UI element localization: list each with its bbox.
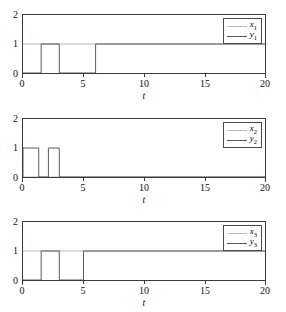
subplot-1-xtick-15: 15 xyxy=(194,79,216,89)
legend-line-y3-icon xyxy=(227,243,247,244)
subplot-3-legend-row-y3: y3 xyxy=(227,238,257,248)
subplot-1-ytick-2: 2 xyxy=(2,10,18,20)
series-y1-line xyxy=(23,44,265,73)
figure-three-stacked-step-plots: 2 1 0 x1 y1 xyxy=(0,0,286,312)
legend-line-y2-icon xyxy=(227,140,247,141)
subplot-3-xtick-mark-10 xyxy=(144,281,145,284)
subplot-3-xtick-mark-5 xyxy=(83,281,84,284)
subplot-1-ytick-0: 0 xyxy=(2,69,18,79)
subplot-1-legend: x1 y1 xyxy=(223,18,262,44)
subplot-1: 2 1 0 x1 y1 xyxy=(0,0,286,104)
legend-label-y3: y3 xyxy=(250,237,257,249)
subplot-2-legend: x2 y2 xyxy=(223,122,262,148)
subplot-3-xtick-15: 15 xyxy=(194,286,216,296)
subplot-1-xtick-mark-15 xyxy=(205,74,206,77)
subplot-2-xtick-10: 10 xyxy=(133,183,155,193)
series-y2-line xyxy=(23,148,265,177)
subplot-1-xtick-20: 20 xyxy=(254,79,276,89)
subplot-1-xaxis-title: t xyxy=(134,90,154,101)
subplot-2-xtick-0: 0 xyxy=(11,183,33,193)
legend-label-y2: y2 xyxy=(250,134,257,146)
legend-line-x2-icon xyxy=(227,130,247,131)
subplot-2-xtick-15: 15 xyxy=(194,183,216,193)
legend-line-x1-icon xyxy=(227,26,247,27)
subplot-3: 2 1 0 x3 y3 xyxy=(0,205,286,309)
legend-line-x3-icon xyxy=(227,233,247,234)
subplot-2-xtick-mark-15 xyxy=(205,178,206,181)
subplot-2-xaxis-title: t xyxy=(134,194,154,205)
subplot-3-xaxis-title: t xyxy=(134,297,154,308)
subplot-1-ytick-1: 1 xyxy=(2,39,18,49)
subplot-1-xtick-mark-5 xyxy=(83,74,84,77)
subplot-2-xtick-mark-10 xyxy=(144,178,145,181)
subplot-2-ytick-1: 1 xyxy=(2,143,18,153)
subplot-2: 2 1 0 x2 y2 xyxy=(0,104,286,208)
subplot-3-xtick-5: 5 xyxy=(72,286,94,296)
subplot-2-ytick-2: 2 xyxy=(2,114,18,124)
subplot-3-xtick-10: 10 xyxy=(133,286,155,296)
subplot-2-plot-area: x2 y2 xyxy=(22,118,266,178)
subplot-3-xtick-20: 20 xyxy=(254,286,276,296)
subplot-2-xtick-5: 5 xyxy=(72,183,94,193)
subplot-2-xtick-20: 20 xyxy=(254,183,276,193)
subplot-3-ytick-2: 2 xyxy=(2,217,18,227)
legend-label-y1: y1 xyxy=(250,30,257,42)
subplot-1-plot-area: x1 y1 xyxy=(22,14,266,74)
subplot-3-ytick-0: 0 xyxy=(2,276,18,286)
series-y3-line xyxy=(23,251,265,280)
subplot-1-xtick-5: 5 xyxy=(72,79,94,89)
subplot-2-legend-row-y2: y2 xyxy=(227,135,257,145)
subplot-2-ytick-0: 0 xyxy=(2,173,18,183)
subplot-3-xtick-0: 0 xyxy=(11,286,33,296)
subplot-1-xtick-10: 10 xyxy=(133,79,155,89)
subplot-1-xtick-mark-10 xyxy=(144,74,145,77)
subplot-2-xtick-mark-5 xyxy=(83,178,84,181)
subplot-1-xtick-0: 0 xyxy=(11,79,33,89)
subplot-3-plot-area: x3 y3 xyxy=(22,221,266,281)
subplot-3-legend: x3 y3 xyxy=(223,225,262,251)
legend-line-y1-icon xyxy=(227,36,247,37)
subplot-1-legend-row-y1: y1 xyxy=(227,31,257,41)
subplot-3-xtick-mark-15 xyxy=(205,281,206,284)
subplot-3-ytick-1: 1 xyxy=(2,246,18,256)
